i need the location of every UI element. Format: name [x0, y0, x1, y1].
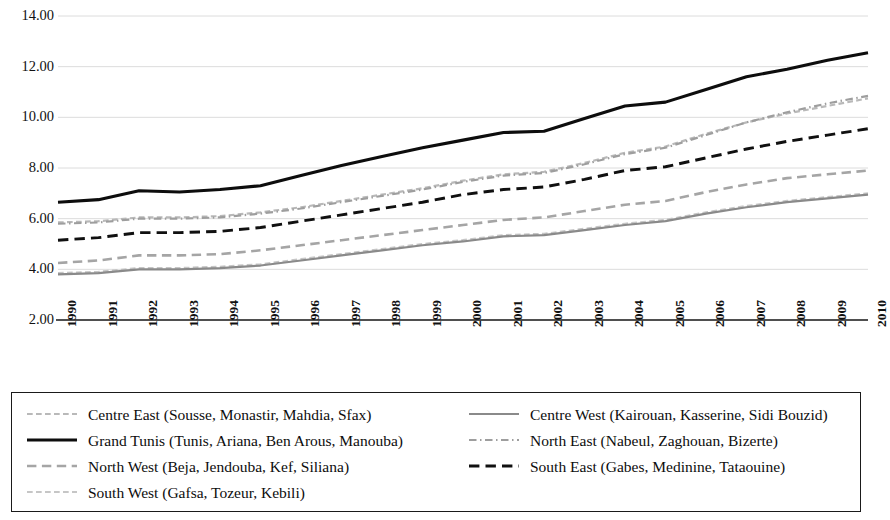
x-tick-label-text: 1994 — [226, 300, 242, 327]
x-tick-label-text: 2007 — [753, 300, 769, 327]
legend-label: South West (Gafsa, Tozeur, Kebili) — [88, 484, 305, 501]
x-tick-label: 2005 — [658, 327, 674, 383]
y-tick-label: 10.00 — [2, 109, 54, 124]
x-tick-label-text: 2009 — [834, 300, 850, 327]
x-tick-label-text: 1990 — [64, 300, 80, 327]
x-tick-label: 1995 — [253, 327, 269, 383]
y-tick-label: 14.00 — [2, 8, 54, 23]
x-tick-label: 2001 — [496, 327, 512, 383]
legend-label: Centre West (Kairouan, Kasserine, Sidi B… — [530, 406, 828, 423]
legend-label: North West (Beja, Jendouba, Kef, Siliana… — [88, 458, 349, 475]
y-axis-tick-labels: 2.004.006.008.0010.0012.0014.00 — [0, 0, 54, 330]
x-tick-label: 2007 — [739, 327, 755, 383]
x-tick-label: 2003 — [577, 327, 593, 383]
legend-item[interactable]: South East (Gabes, Medinine, Tataouine) — [468, 453, 785, 479]
legend-label: North East (Nabeul, Zaghouan, Bizerte) — [530, 432, 778, 449]
x-tick-label: 1999 — [415, 327, 431, 383]
x-tick-label-text: 2001 — [510, 300, 526, 327]
x-tick-label: 2010 — [860, 327, 876, 383]
legend-item[interactable]: North East (Nabeul, Zaghouan, Bizerte) — [468, 427, 778, 453]
x-tick-label: 1994 — [212, 327, 228, 383]
legend-swatch-south-east-icon — [468, 459, 520, 473]
x-tick-label: 1997 — [334, 327, 350, 383]
legend-grid: Centre East (Sousse, Monastir, Mahdia, S… — [12, 393, 860, 511]
legend-item[interactable]: North West (Beja, Jendouba, Kef, Siliana… — [26, 453, 349, 479]
y-tick-label: 2.00 — [2, 312, 54, 327]
legend-swatch-centre-west-icon — [468, 407, 520, 421]
x-tick-label: 1993 — [172, 327, 188, 383]
legend-swatch-grand-tunis-icon — [26, 433, 78, 447]
x-tick-label-text: 1991 — [105, 300, 121, 327]
y-tick-label: 12.00 — [2, 59, 54, 74]
x-tick-label: 2006 — [698, 327, 714, 383]
plot-svg — [0, 0, 873, 330]
legend-swatch-north-west-icon — [26, 459, 78, 473]
y-tick-label: 8.00 — [2, 160, 54, 175]
legend-swatch-centre-east-icon — [26, 407, 78, 421]
legend-item[interactable]: Grand Tunis (Tunis, Ariana, Ben Arous, M… — [26, 427, 403, 453]
legend-label: Centre East (Sousse, Monastir, Mahdia, S… — [88, 406, 372, 423]
x-tick-label-text: 2005 — [672, 300, 688, 327]
y-tick-label: 4.00 — [2, 261, 54, 276]
x-tick-label-text: 1996 — [307, 300, 323, 327]
x-tick-label-text: 2003 — [591, 300, 607, 327]
x-tick-label-text: 1997 — [348, 300, 364, 327]
x-tick-label: 2002 — [536, 327, 552, 383]
y-tick-label: 6.00 — [2, 211, 54, 226]
chart-legend: Centre East (Sousse, Monastir, Mahdia, S… — [11, 392, 861, 512]
x-tick-label: 2008 — [779, 327, 795, 383]
legend-swatch-north-east-icon — [468, 433, 520, 447]
x-tick-label-text: 1995 — [267, 300, 283, 327]
series-line-north-east — [58, 96, 868, 224]
legend-swatch-south-west-icon — [26, 485, 78, 499]
legend-item[interactable]: Centre East (Sousse, Monastir, Mahdia, S… — [26, 401, 372, 427]
x-axis-tick-labels: 1990199119921993199419951996199719981999… — [0, 327, 873, 385]
x-tick-label: 1992 — [131, 327, 147, 383]
x-tick-label: 2004 — [617, 327, 633, 383]
x-tick-label-text: 2000 — [469, 300, 485, 327]
x-tick-label-text: 2004 — [631, 300, 647, 327]
x-tick-label-text: 2010 — [874, 300, 890, 327]
legend-item[interactable]: Centre West (Kairouan, Kasserine, Sidi B… — [468, 401, 828, 427]
x-tick-label-text: 1998 — [388, 300, 404, 327]
legend-item[interactable]: South West (Gafsa, Tozeur, Kebili) — [26, 479, 305, 505]
legend-label: Grand Tunis (Tunis, Ariana, Ben Arous, M… — [88, 432, 403, 449]
x-tick-label-text: 1999 — [429, 300, 445, 327]
gridlines — [58, 16, 868, 320]
x-tick-label-text: 2008 — [793, 300, 809, 327]
x-tick-label-text: 1993 — [186, 300, 202, 327]
x-tick-label: 1996 — [293, 327, 309, 383]
x-tick-label-text: 1992 — [145, 300, 161, 327]
x-tick-label: 1990 — [50, 327, 66, 383]
x-tick-label-text: 2006 — [712, 300, 728, 327]
series-line-centre-west — [58, 195, 868, 275]
x-tick-label: 1991 — [91, 327, 107, 383]
series-layer — [58, 53, 868, 275]
x-tick-label-text: 2002 — [550, 300, 566, 327]
legend-label: South East (Gabes, Medinine, Tataouine) — [530, 458, 785, 475]
plot-area: 2.004.006.008.0010.0012.0014.00 — [0, 0, 873, 330]
x-tick-label: 1998 — [374, 327, 390, 383]
x-tick-label: 2009 — [820, 327, 836, 383]
x-tick-label: 2000 — [455, 327, 471, 383]
